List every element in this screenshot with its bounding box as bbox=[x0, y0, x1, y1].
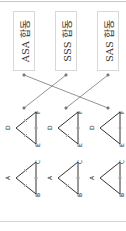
bottom-divider bbox=[0, 221, 126, 222]
svg-text:D: D bbox=[88, 125, 95, 130]
svg-text:D: D bbox=[4, 125, 11, 130]
svg-text:B: B bbox=[76, 193, 83, 197]
connection-lines bbox=[23, 74, 109, 109]
svg-text:E: E bbox=[76, 143, 83, 147]
svg-text:E: E bbox=[118, 143, 125, 147]
svg-text:F: F bbox=[76, 110, 83, 114]
triangles bbox=[16, 112, 120, 194]
svg-text:A: A bbox=[88, 175, 95, 180]
diagram-canvas: D A D A D A F E C B F E C B F E C B bbox=[0, 0, 126, 231]
svg-text:C: C bbox=[34, 160, 41, 164]
tick-marks bbox=[24, 119, 122, 187]
svg-text:C: C bbox=[76, 160, 83, 164]
svg-text:F: F bbox=[34, 110, 41, 114]
svg-text:A: A bbox=[4, 175, 11, 180]
svg-text:B: B bbox=[34, 193, 41, 197]
svg-text:B: B bbox=[118, 193, 125, 197]
svg-text:E: E bbox=[34, 143, 41, 147]
svg-text:C: C bbox=[118, 160, 125, 164]
svg-text:D: D bbox=[46, 125, 53, 130]
svg-text:F: F bbox=[118, 110, 125, 114]
svg-text:A: A bbox=[46, 175, 53, 180]
